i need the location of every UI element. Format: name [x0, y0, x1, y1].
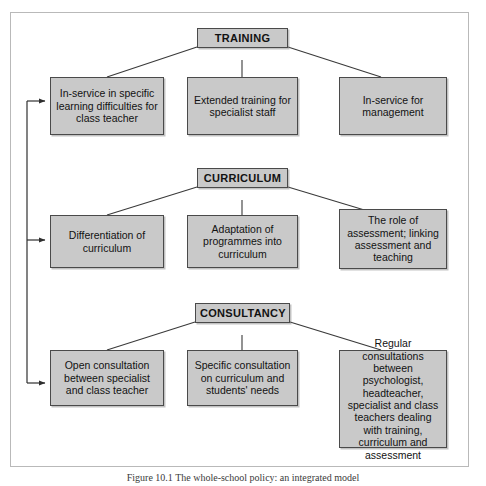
figure-diagram: TRAINING In-service in specific learning… [0, 0, 486, 486]
header-curriculum[interactable]: CURRICULUM [197, 168, 288, 188]
node-training-child-3[interactable]: In-service for management [339, 77, 447, 135]
header-consultancy[interactable]: CONSULTANCY [195, 303, 290, 323]
node-training-child-1[interactable]: In-service in specific learning difficul… [50, 77, 164, 135]
node-consultancy-child-1-label: Open consultation between specialist and… [55, 359, 159, 396]
node-curriculum-child-3-label: The role of assessment; linking assessme… [344, 214, 442, 264]
header-consultancy-label: CONSULTANCY [200, 307, 285, 320]
node-curriculum-child-1[interactable]: Differentiation of curriculum [50, 215, 164, 268]
node-training-child-2-label: Extended training for specialist staff [192, 94, 293, 119]
node-training-child-1-label: In-service in specific learning difficul… [55, 87, 159, 124]
node-training-child-3-label: In-service for management [344, 94, 442, 119]
node-curriculum-child-2[interactable]: Adaptation of programmes into curriculum [187, 215, 298, 268]
node-curriculum-child-1-label: Differentiation of curriculum [55, 229, 159, 254]
node-consultancy-child-1[interactable]: Open consultation between specialist and… [50, 350, 164, 406]
node-consultancy-child-2[interactable]: Specific consultation on curriculum and … [187, 350, 298, 406]
node-consultancy-child-2-label: Specific consultation on curriculum and … [192, 359, 293, 396]
node-curriculum-child-2-label: Adaptation of programmes into curriculum [192, 223, 293, 260]
node-curriculum-child-3[interactable]: The role of assessment; linking assessme… [339, 209, 447, 269]
header-curriculum-label: CURRICULUM [202, 172, 283, 185]
node-consultancy-child-3-label: Regular consultations between psychologi… [344, 337, 442, 461]
figure-caption: Figure 10.1 The whole-school policy: an … [0, 472, 486, 483]
node-training-child-2[interactable]: Extended training for specialist staff [187, 77, 298, 135]
header-training-label: TRAINING [202, 32, 283, 45]
node-consultancy-child-3[interactable]: Regular consultations between psychologi… [339, 350, 447, 448]
header-training[interactable]: TRAINING [197, 28, 288, 48]
